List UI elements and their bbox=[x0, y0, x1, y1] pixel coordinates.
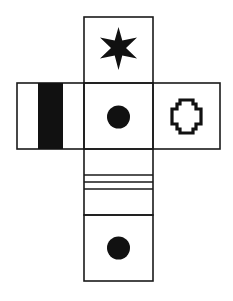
dot-icon-bottom bbox=[107, 237, 130, 260]
face-right bbox=[153, 83, 220, 149]
cube-net-diagram bbox=[0, 0, 233, 301]
black-bar-icon bbox=[38, 83, 63, 149]
dot-icon bbox=[107, 106, 130, 129]
star-icon bbox=[100, 27, 137, 70]
three-lines-icon bbox=[84, 175, 153, 189]
cross-icon bbox=[172, 100, 201, 133]
